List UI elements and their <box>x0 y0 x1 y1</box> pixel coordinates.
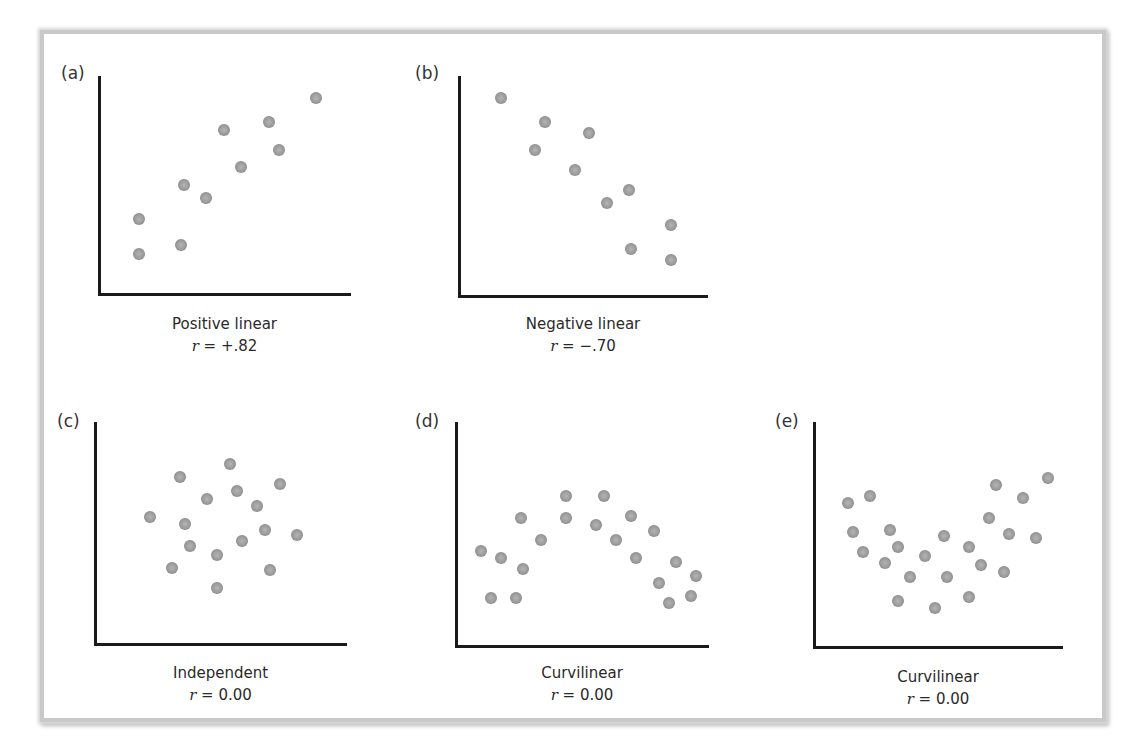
panel-letter-e: (e) <box>775 411 799 431</box>
data-point <box>231 485 243 497</box>
data-point <box>485 592 497 604</box>
data-point <box>475 545 487 557</box>
data-point <box>665 254 677 266</box>
data-point <box>224 458 236 470</box>
data-point <box>1030 532 1042 544</box>
panel-letter-b: (b) <box>415 63 439 83</box>
data-point <box>625 510 637 522</box>
data-point <box>670 556 682 568</box>
data-point <box>857 546 869 558</box>
caption-e: Curvilinear r = 0.00 <box>813 666 1063 710</box>
caption-title-e: Curvilinear <box>813 666 1063 688</box>
data-point <box>583 127 595 139</box>
data-point <box>665 219 677 231</box>
data-point <box>963 591 975 603</box>
data-point <box>529 144 541 156</box>
data-point <box>601 197 613 209</box>
data-point <box>310 92 322 104</box>
data-point <box>259 524 271 536</box>
correlation-value-e: r = 0.00 <box>813 688 1063 710</box>
panel-letter-d: (d) <box>415 411 439 431</box>
data-point <box>941 571 953 583</box>
data-point <box>515 512 527 524</box>
data-point <box>495 552 507 564</box>
data-point <box>273 144 285 156</box>
data-point <box>610 534 622 546</box>
data-point <box>510 592 522 604</box>
data-point <box>179 518 191 530</box>
data-point <box>569 164 581 176</box>
data-point <box>929 602 941 614</box>
data-point <box>842 497 854 509</box>
caption-b: Negative linear r = −.70 <box>458 313 708 357</box>
data-point <box>892 595 904 607</box>
data-point <box>166 562 178 574</box>
data-point <box>200 192 212 204</box>
data-point <box>653 577 665 589</box>
data-point <box>590 519 602 531</box>
caption-title-d: Curvilinear <box>455 662 709 684</box>
scatter-plot-e <box>813 422 1063 649</box>
data-point <box>144 511 156 523</box>
data-point <box>648 525 660 537</box>
data-point <box>251 500 263 512</box>
scatter-plot-d <box>455 422 709 648</box>
data-point <box>235 161 247 173</box>
data-point <box>1042 472 1054 484</box>
data-point <box>133 248 145 260</box>
scatter-plot-b <box>458 76 708 298</box>
data-point <box>963 541 975 553</box>
data-point <box>133 213 145 225</box>
data-point <box>211 582 223 594</box>
data-point <box>685 590 697 602</box>
caption-title-b: Negative linear <box>458 313 708 335</box>
data-point <box>201 493 213 505</box>
data-point <box>625 243 637 255</box>
data-point <box>879 557 891 569</box>
data-point <box>998 566 1010 578</box>
data-point <box>218 124 230 136</box>
scatter-plot-c <box>94 422 347 646</box>
data-point <box>264 564 276 576</box>
panel-letter-c: (c) <box>57 411 80 431</box>
panel-letter-a: (a) <box>61 63 85 83</box>
correlation-value-d: r = 0.00 <box>455 684 709 706</box>
scatter-plot-a <box>98 76 351 296</box>
data-point <box>904 571 916 583</box>
data-point <box>892 541 904 553</box>
data-point <box>495 92 507 104</box>
data-point <box>663 597 675 609</box>
data-point <box>983 512 995 524</box>
caption-c: Independent r = 0.00 <box>94 662 347 706</box>
data-point <box>291 529 303 541</box>
correlation-value-b: r = −.70 <box>458 335 708 357</box>
data-point <box>236 535 248 547</box>
data-point <box>178 179 190 191</box>
correlation-value-c: r = 0.00 <box>94 684 347 706</box>
data-point <box>990 479 1002 491</box>
data-point <box>938 530 950 542</box>
data-point <box>539 116 551 128</box>
data-point <box>623 184 635 196</box>
data-point <box>690 570 702 582</box>
data-point <box>598 490 610 502</box>
data-point <box>884 524 896 536</box>
data-point <box>630 552 642 564</box>
data-point <box>517 563 529 575</box>
data-point <box>184 540 196 552</box>
data-point <box>174 471 186 483</box>
data-point <box>864 490 876 502</box>
data-point <box>560 490 572 502</box>
data-point <box>263 116 275 128</box>
data-point <box>175 239 187 251</box>
data-point <box>560 512 572 524</box>
data-point <box>847 526 859 538</box>
data-point <box>975 559 987 571</box>
data-point <box>1003 528 1015 540</box>
caption-a: Positive linear r = +.82 <box>98 313 351 357</box>
data-point <box>274 478 286 490</box>
correlation-value-a: r = +.82 <box>98 335 351 357</box>
caption-title-a: Positive linear <box>98 313 351 335</box>
data-point <box>919 550 931 562</box>
caption-d: Curvilinear r = 0.00 <box>455 662 709 706</box>
